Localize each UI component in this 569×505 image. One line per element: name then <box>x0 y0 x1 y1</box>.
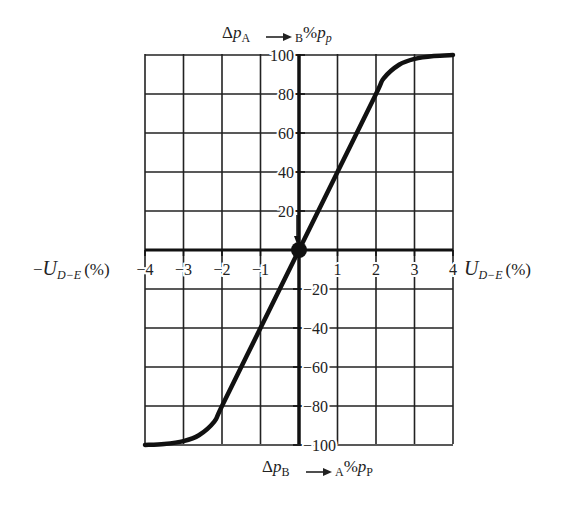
arrow-icon <box>306 468 332 476</box>
y-tick-label: −40 <box>303 320 328 337</box>
x-tick-label: −2 <box>213 261 230 278</box>
y-axis-label-bottom-rest: A%pP <box>335 457 373 479</box>
y-tick-label: −100 <box>303 437 336 454</box>
x-tick-label: 4 <box>449 261 457 278</box>
x-axis-label-left: −UD−E(%) <box>33 257 110 282</box>
arrow-icon <box>266 33 292 41</box>
chart-canvas: −4−3−2−1123410080604020−20−40−60−80−100 … <box>0 0 569 505</box>
y-tick-label: 100 <box>270 47 294 64</box>
origin-marker <box>291 242 307 258</box>
x-tick-label: −3 <box>175 261 192 278</box>
x-tick-label: −1 <box>252 261 269 278</box>
y-tick-label: 40 <box>278 164 294 181</box>
y-tick-label: −60 <box>303 359 328 376</box>
x-tick-label: 3 <box>411 261 419 278</box>
x-tick-label: 1 <box>334 261 342 278</box>
y-tick-label: 20 <box>278 203 294 220</box>
y-axis-label-top-rest: B%pp <box>295 23 332 45</box>
y-tick-label: −80 <box>303 398 328 415</box>
y-axis-label-bottom: ΔpB <box>262 457 289 479</box>
x-tick-label: 2 <box>372 261 380 278</box>
y-tick-label: 60 <box>278 125 294 142</box>
x-tick-label: −4 <box>136 261 153 278</box>
y-tick-label: 80 <box>278 86 294 103</box>
y-tick-label: −20 <box>303 281 328 298</box>
y-axis-label-top: ΔpA <box>222 23 250 45</box>
x-axis-label-right: UD−E(%) <box>464 257 531 282</box>
